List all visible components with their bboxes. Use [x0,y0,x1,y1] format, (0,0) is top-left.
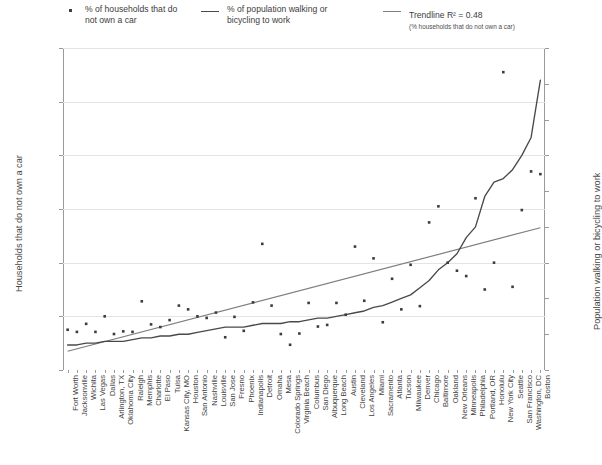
x-tick-label: Oakland [451,375,460,403]
x-tick-label: Fort Worth [71,375,80,411]
x-tick [383,370,384,373]
x-tick-label: Long Beach [339,375,348,416]
x-tick-label: Philadelphia [478,375,487,416]
x-tick-label: Chicago [432,375,441,403]
legend-label-walking: % of population walking or bicycling to … [227,4,327,25]
y-tick-right [545,263,549,264]
x-tick [86,370,87,373]
legend-entry-trendline: Trendline R² = 0.48 (% households that d… [382,4,515,31]
legend-trendline-block: Trendline R² = 0.48 (% households that d… [409,4,515,31]
y-tick-right [545,227,549,228]
scatter-point [242,330,245,333]
x-tick-label: Seattle [516,375,525,399]
scatter-point [363,299,366,302]
scatter-point [400,308,403,311]
x-tick [318,370,319,373]
scatter-point [159,326,162,329]
x-tick [160,370,161,373]
x-tick-label: Minneapolis [469,375,478,416]
x-tick [540,370,541,373]
scatter-point [381,321,384,324]
scatter-point [103,315,106,318]
x-tick-label: San Diego [321,375,330,410]
x-tick-label: San Antonio [200,375,209,416]
scatter-point [521,209,524,212]
scatter-point [344,313,347,316]
x-tick-label: Memphis [145,375,154,406]
x-tick-label: Cleveland [358,375,367,409]
x-tick [207,370,208,373]
x-tick [401,370,402,373]
x-tick [68,370,69,373]
legend-entry-walking: % of population walking or bicycling to … [200,4,327,25]
y-tick-right [545,84,549,85]
x-tick-label: Mesa [284,375,293,394]
scatter-point [419,305,422,308]
legend-marker-dot-icon [58,6,80,18]
scatter-point [113,333,116,336]
scatter-point [391,277,394,280]
x-tick-label: Miami [377,375,386,395]
legend-entry-households: % of households that do not own a car [58,4,177,25]
scatter-point [465,275,468,278]
x-tick [179,370,180,373]
x-tick [290,370,291,373]
x-tick [420,370,421,373]
scatter-point [131,331,134,334]
scatter-point [280,333,283,336]
y-tick-right [545,155,549,156]
x-tick-label: Virginia Beach [302,375,311,424]
x-tick-label: Detroit [265,375,274,397]
scatter-point [187,308,190,311]
x-tick [105,370,106,373]
x-tick [494,370,495,373]
x-tick [244,370,245,373]
x-tick-label: Dallas [108,375,117,396]
chart-legend: % of households that do not own a car % … [0,0,602,36]
x-tick [151,370,152,373]
scatter-point [372,257,375,260]
y-tick-right [545,48,549,49]
x-tick [346,370,347,373]
scatter-point [335,302,338,305]
x-tick-label: Boston [543,375,552,399]
scatter-point [94,331,97,334]
scatter-point [205,317,208,320]
x-tick [133,370,134,373]
x-tick-label: Nashville [210,375,219,406]
y-tick-right [545,334,549,335]
x-tick-label: Fresno [237,375,246,399]
x-tick [95,370,96,373]
plot-area: 0%10%20%30%40%50%60%0%2%4%6%8%10%12%14%1… [63,48,545,370]
scatter-point [122,330,125,333]
x-tick [438,370,439,373]
x-tick [513,370,514,373]
x-tick-label: San Francisco [525,375,534,424]
x-tick-label: Austin [349,375,358,396]
x-tick-label: Albuquerque [330,375,339,418]
x-tick-label: Jacksonville [80,375,89,416]
scatter-point [317,325,320,328]
x-tick-label: Kansas City, MO [182,375,191,431]
x-tick [355,370,356,373]
y-tick-right [545,370,549,371]
scatter-point [456,269,459,272]
x-tick [411,370,412,373]
legend-marker-trendline-icon [382,6,404,18]
y-axis-title-right: Population walking or bicycling to work [592,173,602,330]
scatter-point [539,173,542,176]
x-tick [114,370,115,373]
legend-label-trendline: Trendline R² = 0.48 [409,10,482,20]
y-tick-right [545,191,549,192]
x-tick-label: Tulsa [173,375,182,393]
scatter-point [140,300,143,303]
scatter-point [483,288,486,291]
walking-line-path [68,80,541,345]
scatter-point [233,316,236,319]
x-tick [327,370,328,373]
x-tick [225,370,226,373]
x-tick-label: Los Angeles [367,375,376,416]
scatter-point [530,170,533,173]
x-tick [475,370,476,373]
scatter-point [85,323,88,326]
